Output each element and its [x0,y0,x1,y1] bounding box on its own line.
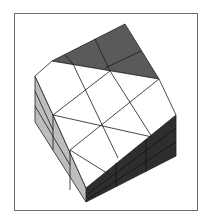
cube-diagram [0,0,212,223]
